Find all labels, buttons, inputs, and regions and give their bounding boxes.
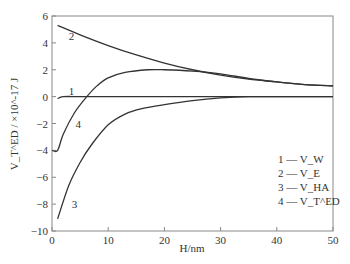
- legend-item-4: 4 — V_T^ED: [278, 195, 340, 207]
- x-tick-label: 50: [328, 234, 340, 246]
- curve-2: [58, 25, 333, 85]
- y-tick-label: 4: [43, 37, 49, 49]
- x-axis-label: H/nm: [179, 242, 205, 254]
- x-tick-label: 40: [271, 234, 283, 246]
- y-tick-label: 2: [43, 64, 49, 76]
- y-tick-label: −2: [36, 118, 48, 130]
- x-tick-label: 20: [159, 234, 171, 246]
- y-tick-label: −8: [36, 198, 48, 210]
- x-tick-label: 30: [215, 234, 227, 246]
- chart: −10−8−6−4−20246 01020304050 1234 H/nm V_…: [0, 0, 350, 264]
- curve-label-1: 1: [69, 85, 75, 97]
- x-tick-label: 0: [49, 234, 55, 246]
- legend-item-2: 2 — V_E: [278, 167, 320, 179]
- x-tick-label: 10: [103, 234, 115, 246]
- curve-4: [52, 69, 333, 151]
- legend-item-1: 1 — V_W: [278, 153, 324, 165]
- legend: 1 — V_W2 — V_E3 — V_HA4 — V_T^ED: [278, 153, 340, 207]
- y-tick-label: −10: [31, 225, 49, 237]
- y-axis-label: V_T^ED / ×10^-17 J: [8, 77, 20, 170]
- y-tick-label: 0: [43, 91, 49, 103]
- curve-label-4: 4: [76, 118, 82, 130]
- curve-label-3: 3: [72, 198, 78, 210]
- y-tick-label: −6: [36, 171, 48, 183]
- y-tick-label: 6: [43, 10, 49, 22]
- legend-item-3: 3 — V_HA: [278, 181, 329, 193]
- y-tick-label: −4: [36, 144, 48, 156]
- svg-text:V_T^ED / ×10^-17 J: V_T^ED / ×10^-17 J: [8, 77, 20, 170]
- curve-label-2: 2: [69, 30, 75, 42]
